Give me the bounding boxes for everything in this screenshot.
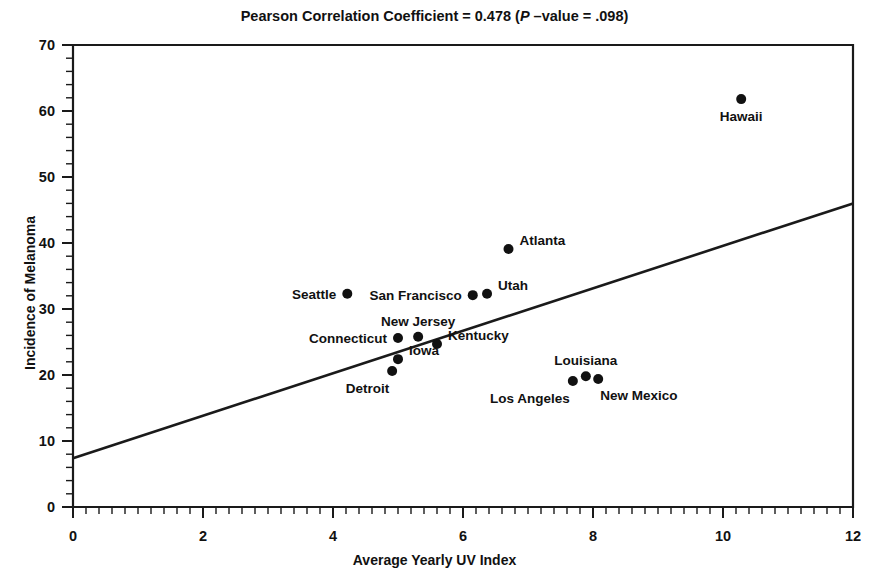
data-point (393, 333, 403, 343)
x-tick-label: 8 (589, 528, 597, 544)
data-point (468, 290, 478, 300)
data-point-label: Kentucky (448, 328, 509, 343)
data-point (736, 94, 746, 104)
x-tick-label: 4 (329, 528, 337, 544)
data-point-label: San Francisco (369, 288, 461, 303)
data-point (504, 244, 514, 254)
data-point-label: New Jersey (381, 314, 456, 329)
y-tick-label: 10 (39, 433, 55, 449)
y-tick-label: 40 (39, 235, 55, 251)
data-point-label: Connecticut (309, 331, 388, 346)
data-point-label: Louisiana (554, 353, 618, 368)
y-tick-label: 70 (39, 37, 55, 53)
data-point (593, 374, 603, 384)
data-point-label: Los Angeles (490, 391, 570, 406)
data-point-label: Hawaii (720, 109, 763, 124)
data-point-label: Detroit (346, 381, 390, 396)
x-tick-label: 12 (845, 528, 861, 544)
data-point-label: Utah (498, 278, 528, 293)
data-point-label: Iowa (409, 343, 439, 358)
y-tick-label: 30 (39, 301, 55, 317)
data-point (482, 289, 492, 299)
data-point (342, 289, 352, 299)
data-point-label: Seattle (292, 287, 337, 302)
data-point-label: Atlanta (520, 233, 566, 248)
point-labels-layer: HawaiiAtlantaSeattleSan FranciscoUtahCon… (292, 109, 763, 406)
x-tick-label: 6 (459, 528, 467, 544)
data-point (568, 376, 578, 386)
x-tick-label: 2 (199, 528, 207, 544)
data-point (413, 332, 423, 342)
data-point (393, 354, 403, 364)
scatter-plot-canvas: 024681012010203040506070 HawaiiAtlantaSe… (0, 0, 869, 585)
y-tick-label: 0 (47, 499, 55, 515)
data-point (387, 366, 397, 376)
data-point (581, 371, 591, 381)
y-tick-label: 50 (39, 169, 55, 185)
data-point-label: New Mexico (600, 388, 677, 403)
y-tick-label: 20 (39, 367, 55, 383)
x-tick-label: 10 (715, 528, 731, 544)
x-tick-label: 0 (69, 528, 77, 544)
y-tick-label: 60 (39, 103, 55, 119)
chart-figure: Pearson Correlation Coefficient = 0.478 … (0, 0, 869, 585)
x-axis-label: Average Yearly UV Index (0, 552, 869, 568)
